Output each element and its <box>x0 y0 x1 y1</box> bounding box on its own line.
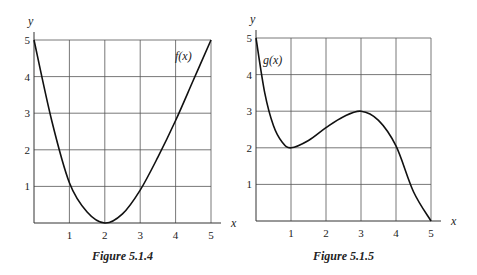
charts-canvas: 1234512345xyf(x)Figure 5.1.4 1234512345x… <box>0 0 477 275</box>
x-tick-label: 5 <box>428 227 434 239</box>
figure-caption: Figure 5.1.4 <box>91 249 153 263</box>
x-tick-label: 5 <box>208 229 214 241</box>
y-tick-label: 3 <box>25 107 31 119</box>
figure-caption: Figure 5.1.5 <box>312 249 374 263</box>
y-axis-label: y <box>27 14 34 28</box>
y-tick-label: 5 <box>247 32 253 44</box>
x-tick-label: 2 <box>102 229 108 241</box>
x-axis-label: x <box>450 214 457 228</box>
y-tick-label: 5 <box>25 34 31 46</box>
y-tick-label: 1 <box>247 178 253 190</box>
x-tick-label: 1 <box>288 227 294 239</box>
x-tick-label: 4 <box>393 227 399 239</box>
x-tick-label: 2 <box>323 227 329 239</box>
y-tick-label: 4 <box>247 69 253 81</box>
x-axis-label: x <box>230 216 237 230</box>
x-tick-label: 4 <box>173 229 179 241</box>
y-tick-label: 4 <box>25 71 31 83</box>
chart-figure-5-1-5: 1234512345xyg(x)Figure 5.1.5 <box>247 12 458 263</box>
chart-figure-5-1-4: 1234512345xyf(x)Figure 5.1.4 <box>25 14 238 263</box>
function-curve <box>34 40 211 223</box>
y-tick-label: 1 <box>25 180 31 192</box>
x-tick-label: 1 <box>67 229 73 241</box>
y-axis-label: y <box>249 12 256 26</box>
x-tick-label: 3 <box>137 229 143 241</box>
y-tick-label: 2 <box>25 144 31 156</box>
curve-label: f(x) <box>175 49 192 63</box>
y-tick-label: 2 <box>247 142 253 154</box>
x-tick-label: 3 <box>358 227 364 239</box>
y-tick-label: 3 <box>247 105 253 117</box>
curve-label: g(x) <box>263 53 282 67</box>
